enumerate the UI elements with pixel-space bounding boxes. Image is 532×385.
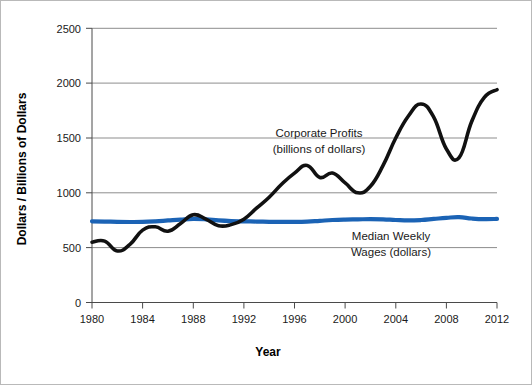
y-tick-marks [86,28,92,302]
y-tick-label-1500: 1500 [57,132,81,144]
y-tick-label-2000: 2000 [57,77,81,89]
corporate-profits-annotation-line2: (billions of dollars) [273,143,366,155]
x-axis-title: Year [255,345,281,359]
x-tick-label-1984: 1984 [130,313,154,325]
x-tick-label-2008: 2008 [434,313,458,325]
chart-container: 2500 2000 1500 1000 500 0 1980 1984 1988… [0,0,532,385]
corporate-profits-annotation: Corporate Profits (billions of dollars) [273,127,366,155]
x-tick-label-1992: 1992 [232,313,256,325]
x-tick-marks [92,303,497,309]
x-tick-label-2004: 2004 [384,313,408,325]
series-line-corporate-profits [92,90,497,251]
y-tick-label-500: 500 [63,242,81,254]
x-tick-label-2012: 2012 [485,313,509,325]
corporate-profits-annotation-line1: Corporate Profits [276,127,363,139]
line-chart: 2500 2000 1500 1000 500 0 1980 1984 1988… [1,1,532,385]
x-tick-label-1980: 1980 [80,313,104,325]
y-tick-label-2500: 2500 [57,23,81,35]
y-tick-label-1000: 1000 [57,187,81,199]
y-tick-label-0: 0 [75,297,81,309]
x-tick-label-1996: 1996 [282,313,306,325]
y-axis-title: Dollars / Billions of Dollars [15,92,29,245]
series-line-median-weekly-wages [92,217,497,222]
median-weekly-wages-annotation-line2: Wages (dollars) [351,246,431,258]
median-weekly-wages-annotation-line1: Median Weekly [352,230,431,242]
median-weekly-wages-annotation: Median Weekly Wages (dollars) [351,230,431,258]
x-tick-label-1988: 1988 [181,313,205,325]
x-tick-label-2000: 2000 [333,313,357,325]
